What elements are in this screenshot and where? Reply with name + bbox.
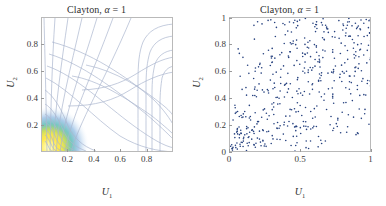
scatter-point bbox=[251, 138, 253, 140]
scatter-point bbox=[361, 80, 363, 82]
scatter-point bbox=[239, 75, 241, 77]
scatter-point bbox=[258, 121, 260, 123]
scatter-ytick-3 bbox=[229, 71, 232, 72]
title-name: Clayton, bbox=[260, 4, 295, 15]
scatter-ytick-4 bbox=[229, 44, 232, 45]
panel-scatter: Clayton, α = 1 0 0.5 1 0 0.2 0.4 0.6 0.8… bbox=[193, 0, 386, 206]
scatter-point bbox=[285, 115, 287, 117]
scatter-point bbox=[323, 31, 325, 33]
scatter-point bbox=[368, 44, 370, 46]
scatter-point bbox=[271, 109, 273, 111]
scatter-point bbox=[368, 124, 370, 126]
scatter-yaxis-label-sub: 2 bbox=[197, 77, 204, 80]
scatter-point bbox=[322, 49, 324, 51]
scatter-point bbox=[278, 97, 280, 99]
scatter-point bbox=[270, 19, 272, 21]
scatter-point bbox=[332, 49, 334, 51]
scatter-point bbox=[270, 55, 272, 57]
scatter-point bbox=[365, 94, 367, 96]
scatter-point bbox=[284, 24, 286, 26]
scatter-point bbox=[260, 72, 262, 74]
scatter-point bbox=[265, 146, 267, 148]
scatter-point bbox=[252, 95, 254, 97]
scatter-point bbox=[347, 59, 349, 61]
scatter-point bbox=[325, 24, 327, 26]
scatter-point bbox=[321, 96, 323, 98]
scatter-point bbox=[307, 69, 309, 71]
scatter-point bbox=[291, 31, 293, 33]
scatter-point bbox=[264, 143, 266, 145]
scatter-point bbox=[342, 23, 344, 25]
scatter-point bbox=[234, 107, 236, 109]
scatter-point bbox=[340, 53, 342, 55]
scatter-point bbox=[370, 76, 371, 78]
scatter-point bbox=[363, 94, 365, 96]
scatter-point bbox=[253, 78, 255, 80]
scatter-point bbox=[321, 72, 323, 74]
scatter-point bbox=[333, 70, 335, 72]
scatter-point bbox=[249, 105, 251, 107]
scatter-point bbox=[254, 126, 256, 128]
scatter-point bbox=[333, 80, 335, 82]
scatter-point bbox=[323, 99, 325, 101]
scatter-point bbox=[305, 107, 307, 109]
scatter-point bbox=[344, 45, 346, 47]
scatter-point bbox=[270, 65, 272, 67]
scatter-point bbox=[297, 25, 299, 27]
scatter-point bbox=[366, 50, 368, 52]
scatter-point bbox=[349, 81, 351, 83]
contour-yticklabel-1: 0.4 bbox=[17, 93, 38, 103]
contour-xticklabel-2: 0.6 bbox=[115, 154, 126, 164]
scatter-point bbox=[253, 144, 255, 146]
scatter-point bbox=[263, 53, 265, 55]
scatter-point bbox=[303, 121, 305, 123]
contour-xticklabel-0: 0.2 bbox=[62, 154, 73, 164]
scatter-point bbox=[279, 90, 281, 92]
scatter-point bbox=[243, 113, 245, 115]
scatter-point bbox=[296, 126, 298, 128]
scatter-point bbox=[283, 124, 285, 126]
scatter-point bbox=[338, 20, 340, 22]
scatter-point bbox=[288, 55, 290, 57]
scatter-point bbox=[277, 103, 279, 105]
scatter-point bbox=[358, 56, 360, 58]
contour-xticklabel-1: 0.4 bbox=[88, 154, 99, 164]
contour-ytick-3 bbox=[41, 44, 44, 45]
scatter-point bbox=[287, 30, 289, 32]
scatter-point bbox=[289, 21, 291, 23]
scatter-point bbox=[253, 25, 255, 27]
scatter-point bbox=[278, 127, 280, 129]
scatter-point bbox=[264, 108, 266, 110]
scatter-point bbox=[273, 106, 275, 108]
scatter-point bbox=[275, 71, 277, 73]
scatter-point bbox=[260, 141, 262, 143]
scatter-point bbox=[283, 133, 285, 135]
scatter-point bbox=[360, 19, 362, 21]
scatter-point bbox=[347, 24, 349, 26]
scatter-point bbox=[304, 37, 306, 39]
title-param: α bbox=[105, 4, 110, 15]
scatter-point bbox=[262, 130, 264, 132]
scatter-point bbox=[240, 129, 242, 131]
scatter-point bbox=[340, 132, 342, 134]
scatter-point bbox=[357, 35, 359, 37]
scatter-point bbox=[309, 40, 311, 42]
scatter-point bbox=[235, 113, 237, 115]
contour-xticklabel-3: 0.8 bbox=[141, 154, 152, 164]
scatter-point bbox=[291, 43, 293, 45]
scatter-point bbox=[309, 93, 311, 95]
scatter-yticklabel-5: 1 bbox=[205, 13, 226, 23]
contour-yticklabel-3: 0.8 bbox=[17, 39, 38, 49]
scatter-point bbox=[355, 134, 357, 136]
scatter-point bbox=[248, 142, 250, 144]
scatter-point bbox=[357, 44, 359, 46]
scatter-point bbox=[313, 125, 315, 127]
title-value: 1 bbox=[314, 4, 319, 15]
scatter-points bbox=[230, 18, 371, 152]
scatter-point bbox=[314, 116, 316, 118]
scatter-point bbox=[276, 127, 278, 129]
scatter-point bbox=[298, 111, 300, 113]
scatter-xticklabel-0: 0 bbox=[227, 154, 232, 164]
scatter-point bbox=[352, 100, 354, 102]
scatter-point bbox=[262, 89, 264, 91]
